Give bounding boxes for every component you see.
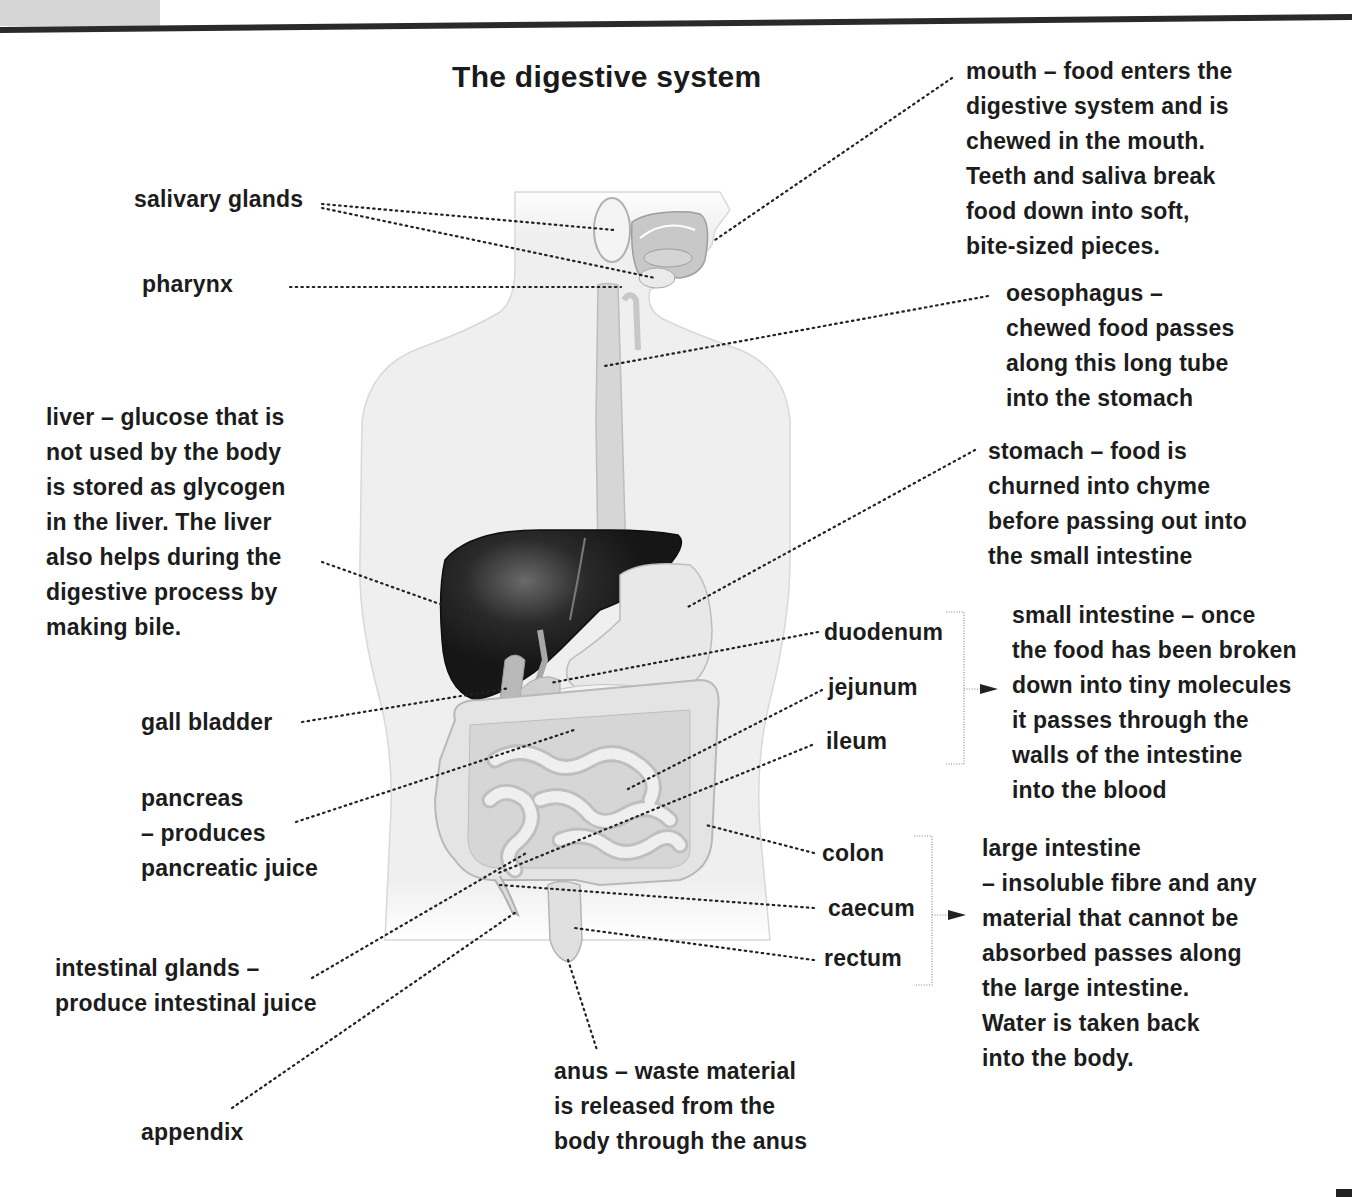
pancreas-line-1: pancreas bbox=[141, 781, 318, 816]
mouth-line-2: digestive system and is bbox=[966, 89, 1233, 124]
page-edge-mark bbox=[1336, 1189, 1352, 1197]
liver-line-4: in the liver. The liver bbox=[46, 505, 285, 540]
stomach-line-2: churned into chyme bbox=[988, 469, 1247, 504]
liver-line-3: is stored as glycogen bbox=[46, 470, 285, 505]
pancreas-line-2: – produces bbox=[141, 816, 318, 851]
liver-line-2: not used by the body bbox=[46, 435, 285, 470]
small-intestine-line-5: walls of the intestine bbox=[1012, 738, 1297, 773]
label-appendix: appendix bbox=[141, 1115, 244, 1150]
label-duodenum: duodenum bbox=[824, 615, 943, 650]
oesophagus-line-4: into the stomach bbox=[1006, 381, 1235, 416]
large-intestine-line-6: Water is taken back bbox=[982, 1006, 1257, 1041]
large-intestine-line-4: absorbed passes along bbox=[982, 936, 1257, 971]
stomach-line-4: the small intestine bbox=[988, 539, 1247, 574]
oesophagus-line-1: oesophagus – bbox=[1006, 276, 1235, 311]
large-intestine-line-5: the large intestine. bbox=[982, 971, 1257, 1006]
label-rectum: rectum bbox=[824, 941, 902, 976]
liver-line-7: making bile. bbox=[46, 610, 285, 645]
label-pharynx: pharynx bbox=[142, 267, 233, 302]
liver-text: that is bbox=[209, 404, 285, 430]
label-ileum: ileum bbox=[826, 724, 887, 759]
label-pancreas: pancreas – produces pancreatic juice bbox=[141, 781, 318, 886]
anus-line-2: is released from the bbox=[554, 1089, 807, 1124]
label-small-intestine: small intestine – once the food has been… bbox=[1012, 598, 1297, 808]
glycogen-term: glycogen bbox=[183, 474, 286, 500]
intestinal-glands-line-2: produce intestinal juice bbox=[55, 986, 317, 1021]
intestinal-glands-line-1: intestinal glands – bbox=[55, 951, 317, 986]
mouth-line-4: Teeth and saliva break bbox=[966, 159, 1233, 194]
liver-line-1: liver – glucose that is bbox=[46, 400, 285, 435]
large-intestine-arrow-icon bbox=[948, 910, 966, 920]
label-salivary-glands: salivary glands bbox=[134, 182, 303, 217]
label-mouth: mouth – food enters the digestive system… bbox=[966, 54, 1233, 264]
label-liver: liver – glucose that is not used by the … bbox=[46, 400, 285, 645]
small-intestine-bracket bbox=[946, 612, 982, 764]
label-caecum: caecum bbox=[828, 891, 915, 926]
anus-line-1: anus – waste material bbox=[554, 1054, 807, 1089]
mouth-line-5: food down into soft, bbox=[966, 194, 1233, 229]
large-intestine-line-3: material that cannot be bbox=[982, 901, 1257, 936]
label-stomach: stomach – food is churned into chyme bef… bbox=[988, 434, 1247, 574]
glucose-term: glucose bbox=[121, 404, 209, 430]
mouth-line-3: chewed in the mouth. bbox=[966, 124, 1233, 159]
label-large-intestine: large intestine – insoluble fibre and an… bbox=[982, 831, 1257, 1076]
anus-line-3: body through the anus bbox=[554, 1124, 807, 1159]
pancreas-line-3: pancreatic juice bbox=[141, 851, 318, 886]
label-jejunum: jejunum bbox=[828, 670, 918, 705]
liver-text: is stored as bbox=[46, 474, 183, 500]
liver-text: liver – bbox=[46, 404, 121, 430]
large-intestine-line-1: large intestine bbox=[982, 831, 1257, 866]
mouth-line-6: bite-sized pieces. bbox=[966, 229, 1233, 264]
label-gall-bladder: gall bladder bbox=[141, 705, 272, 740]
stomach-line-1: stomach – food is bbox=[988, 434, 1247, 469]
label-colon: colon bbox=[822, 836, 884, 871]
small-intestine-line-3: down into tiny molecules bbox=[1012, 668, 1297, 703]
label-anus: anus – waste material is released from t… bbox=[554, 1054, 807, 1159]
small-intestine-arrow-icon bbox=[980, 684, 998, 694]
stomach-line-3: before passing out into bbox=[988, 504, 1247, 539]
small-intestine-line-2: the food has been broken bbox=[1012, 633, 1297, 668]
large-intestine-line-2: – insoluble fibre and any bbox=[982, 866, 1257, 901]
oesophagus-line-2: chewed food passes bbox=[1006, 311, 1235, 346]
liver-line-6: digestive process by bbox=[46, 575, 285, 610]
small-intestine-line-1: small intestine – once bbox=[1012, 598, 1297, 633]
oesophagus-line-3: along this long tube bbox=[1006, 346, 1235, 381]
small-intestine-line-4: it passes through the bbox=[1012, 703, 1297, 738]
small-intestine-line-6: into the blood bbox=[1012, 773, 1297, 808]
large-intestine-line-7: into the body. bbox=[982, 1041, 1257, 1076]
label-intestinal-glands: intestinal glands – produce intestinal j… bbox=[55, 951, 317, 1021]
liver-line-5: also helps during the bbox=[46, 540, 285, 575]
large-intestine-bracket bbox=[914, 836, 950, 985]
label-oesophagus: oesophagus – chewed food passes along th… bbox=[1006, 276, 1235, 416]
mouth-line-1: mouth – food enters the bbox=[966, 54, 1233, 89]
rectum-shape bbox=[548, 882, 582, 963]
